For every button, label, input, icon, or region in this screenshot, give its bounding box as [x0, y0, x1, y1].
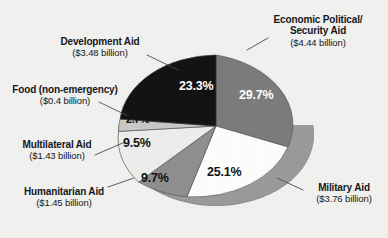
callout-title-multilateral-aid: Multilateral Aid	[2, 139, 112, 150]
callout-humanitarian-aid: Humanitarian Aid ($1.45 billion)	[4, 186, 124, 209]
pct-label-humanitarian-aid: 9.7%	[141, 171, 169, 185]
pct-label-multilateral-aid: 9.5%	[123, 136, 151, 150]
callout-title-food-non-emergency: Food (non-emergency)	[2, 84, 128, 95]
callout-title-military-aid: Military Aid	[302, 182, 386, 193]
callout-title-line2-economic-political-security-aid: Security Aid	[254, 25, 382, 36]
callout-title-line1-economic-political-security-aid: Economic Political/	[254, 14, 382, 25]
callout-military-aid: Military Aid ($3.76 billion)	[302, 182, 386, 205]
callout-multilateral-aid: Multilateral Aid ($1.43 billion)	[2, 139, 112, 162]
pct-label-development-aid: 23.3%	[179, 79, 213, 93]
callout-amount-food-non-emergency: ($0.4 billion)	[2, 96, 128, 107]
callout-amount-economic-political-security-aid: ($4.44 billion)	[254, 38, 382, 49]
callout-amount-multilateral-aid: ($1.43 billion)	[2, 151, 112, 162]
callout-development-aid: Development Aid ($3.48 billion)	[36, 36, 164, 59]
callout-title-humanitarian-aid: Humanitarian Aid	[4, 186, 124, 197]
pie-chart-figure: Development Aid ($3.48 billion) Economic…	[0, 0, 388, 238]
callout-economic-political-security-aid: Economic Political/ Security Aid ($4.44 …	[254, 14, 382, 49]
callout-amount-humanitarian-aid: ($1.45 billion)	[4, 198, 124, 209]
pct-label-military-aid: 25.1%	[207, 165, 241, 179]
callout-food-non-emergency: Food (non-emergency) ($0.4 billion)	[2, 84, 128, 107]
pct-label-food-non-emergency: 2.7%	[126, 113, 149, 125]
callout-amount-military-aid: ($3.76 billion)	[302, 194, 386, 205]
callout-amount-development-aid: ($3.48 billion)	[36, 48, 164, 59]
pct-label-economic-political-security-aid: 29.7%	[239, 88, 273, 102]
callout-title-development-aid: Development Aid	[36, 36, 164, 47]
